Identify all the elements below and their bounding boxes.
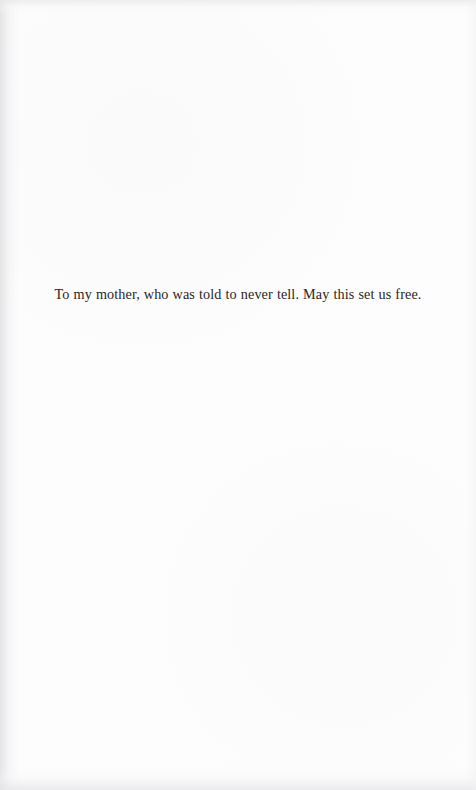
dedication-text: To my mother, who was told to never tell… — [55, 285, 422, 304]
book-page: To my mother, who was told to never tell… — [0, 0, 476, 790]
paper-texture — [0, 0, 476, 790]
scan-edge-bottom — [0, 764, 476, 790]
scan-edge-right — [466, 0, 476, 790]
dedication-block: To my mother, who was told to never tell… — [0, 285, 476, 304]
scan-edge-left — [0, 0, 26, 790]
scan-edge-top — [0, 0, 476, 16]
